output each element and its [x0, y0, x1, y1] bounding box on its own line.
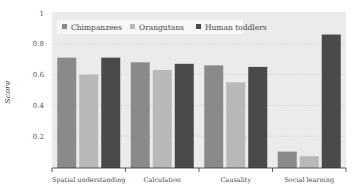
legend: ChimpanzeesOrangutansHuman toddlers: [57, 20, 267, 34]
bar-orangutans: [226, 82, 245, 168]
legend-swatch: [62, 24, 67, 29]
bar-orangutans: [153, 70, 172, 168]
bar-chart: 0.20.40.60.81 Score Spatial understandin…: [0, 0, 357, 196]
legend-label: Orangutans: [139, 23, 184, 32]
bar-chimpanzees: [131, 62, 150, 168]
legend-swatch: [130, 24, 135, 29]
bar-human-toddlers: [175, 64, 194, 168]
legend-swatch: [196, 24, 201, 29]
bar-human-toddlers: [248, 67, 267, 168]
bar-orangutans: [300, 156, 319, 168]
bar-human-toddlers: [322, 35, 341, 168]
legend-label: Chimpanzees: [71, 23, 122, 32]
x-category-label: Causality: [220, 176, 251, 184]
y-tick-label: 1: [40, 10, 44, 18]
x-category-label: Spatial understanding: [52, 176, 125, 184]
bar-chimpanzees: [278, 152, 297, 168]
y-tick-label: 0.2: [33, 133, 44, 141]
x-category-label: Social learning: [284, 176, 334, 184]
x-axis-ticks: Spatial understandingCalculationCausalit…: [52, 168, 346, 184]
y-axis-label: Score: [3, 80, 12, 104]
y-tick-label: 0.6: [33, 71, 45, 79]
legend-label: Human toddlers: [205, 23, 267, 32]
x-category-label: Calculation: [144, 176, 182, 184]
bar-chimpanzees: [204, 65, 223, 168]
y-tick-label: 0.8: [33, 40, 44, 48]
bar-human-toddlers: [101, 58, 120, 168]
y-axis-ticks: 0.20.40.60.81: [33, 10, 45, 141]
y-tick-label: 0.4: [33, 102, 45, 110]
bar-orangutans: [79, 75, 98, 168]
bar-chimpanzees: [57, 58, 76, 168]
